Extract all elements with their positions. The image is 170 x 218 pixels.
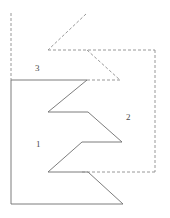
region-label-1: 1 bbox=[36, 140, 41, 149]
region-1-outline bbox=[11, 80, 123, 204]
region-label-3: 3 bbox=[35, 64, 40, 73]
zigzag-diagram bbox=[0, 0, 170, 218]
region-label-2: 2 bbox=[126, 113, 131, 122]
figure-container: 1 2 3 bbox=[0, 0, 170, 218]
region-3-lower-zigzag bbox=[87, 50, 120, 80]
region-3-upper-zigzag bbox=[48, 14, 86, 50]
